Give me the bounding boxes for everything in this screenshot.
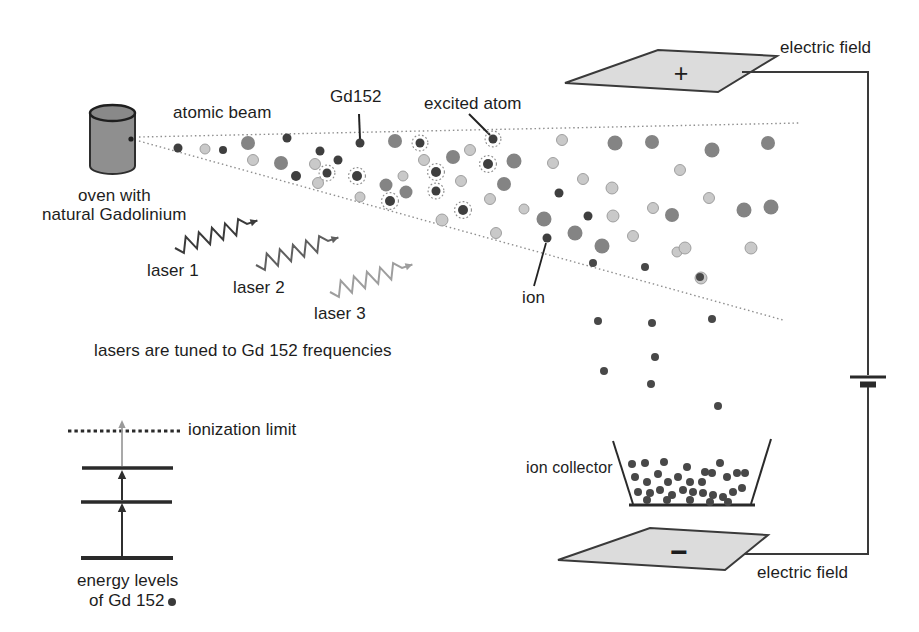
excited-atom-dot: [385, 196, 395, 206]
atom-dot-light: [419, 155, 430, 166]
electric-field-plate-bottom: [558, 528, 768, 570]
ion-dot: [594, 317, 602, 325]
atom-dot-light: [607, 210, 619, 222]
collected-ion-dot: [708, 469, 716, 477]
collected-ion-dot: [706, 498, 714, 506]
atom-dot-gray: [595, 239, 610, 254]
collected-ion-dot: [738, 484, 746, 492]
gd152-atom-dot: [219, 146, 227, 154]
collected-ion-dot: [664, 478, 672, 486]
atom-dot-gray: [241, 136, 255, 150]
collector-right-wall: [751, 439, 771, 504]
collected-ion-dot: [723, 473, 731, 481]
laser3-label: laser 3: [314, 304, 366, 323]
collected-ion-dot: [679, 486, 687, 494]
excited-atom-label: excited atom: [424, 94, 522, 113]
atom-dot-gray: [645, 135, 659, 149]
laser-1-arrowhead: [250, 219, 258, 226]
excited-atom-dot: [431, 167, 441, 177]
excited-atom-pointer-line: [469, 114, 490, 135]
collected-ion-dot: [699, 489, 707, 497]
electric-field-top-label: electric field: [780, 38, 871, 57]
gd152-pointer-line: [359, 114, 360, 139]
excited-atom-dot: [489, 135, 498, 144]
collected-ion-dot: [641, 459, 649, 467]
collected-ion-dot: [656, 486, 664, 494]
laser2-label: laser 2: [233, 278, 285, 297]
ion-dot: [648, 319, 656, 327]
laser-3-beam: [330, 263, 412, 297]
energy-levels-label-line2: of Gd 152: [89, 591, 176, 610]
ion-dot: [600, 367, 608, 375]
wire-top: [742, 72, 868, 375]
gd152-atom-dot: [283, 134, 292, 143]
ion-pointer-line: [534, 243, 546, 286]
atom-dot-light: [675, 165, 686, 176]
ion-dot: [651, 353, 659, 361]
collected-ion-dot: [663, 496, 671, 504]
laser-1-beam: [175, 219, 257, 253]
collected-ion-dot: [683, 463, 691, 471]
excited-atom-dot: [416, 139, 425, 148]
atom-dot-light: [456, 176, 467, 187]
figure-canvas: + −: [0, 0, 919, 632]
atom-dot-gray: [665, 208, 679, 222]
ion-collector-label: ion collector: [526, 459, 613, 477]
excited-atom-dot: [432, 187, 441, 196]
atom-dot-light: [606, 182, 618, 194]
laser-beams: [175, 219, 412, 297]
ionization-arrow-head: [118, 420, 125, 428]
collected-ion-dot: [686, 478, 694, 486]
laser-3-arrowhead: [405, 263, 413, 270]
gd152-atom-dot: [543, 234, 552, 243]
gd152-atom-dot: [334, 156, 343, 165]
gd152-label: Gd152: [330, 87, 382, 106]
atom-dot-light: [491, 228, 502, 239]
collected-ion-dot: [634, 488, 642, 496]
excited-atom-dot: [458, 205, 468, 215]
gd152-atom-legend-dot: [168, 598, 176, 606]
excited-atom-dot: [352, 171, 362, 181]
wire-bottom: [744, 387, 868, 554]
atom-dot-light: [557, 135, 568, 146]
collected-ion-dot: [628, 460, 636, 468]
collected-ion-dot: [674, 473, 682, 481]
ion-dot: [696, 273, 704, 281]
oven-label-line1: oven with: [78, 186, 151, 205]
gd152-atom-dot: [316, 147, 325, 156]
collected-ion-dot: [724, 498, 732, 506]
electric-field-bottom-label: electric field: [757, 563, 848, 582]
atom-dot-light: [355, 192, 365, 202]
oven-cylinder: [90, 105, 135, 174]
atom-dot-gray: [537, 212, 552, 227]
atom-dot-light: [679, 242, 691, 254]
gd152-atom-dot: [174, 144, 183, 153]
atom-dot-light: [704, 193, 715, 204]
ion-dot: [647, 380, 655, 388]
ionization-limit-label: ionization limit: [188, 420, 296, 439]
atomic-beam-label: atomic beam: [173, 103, 271, 122]
collected-ion-dot: [689, 488, 697, 496]
atom-dot-gray: [568, 226, 583, 241]
laser1-label: laser 1: [147, 261, 199, 280]
atom-dot-light: [548, 158, 559, 169]
lasers-tuned-caption: lasers are tuned to Gd 152 frequencies: [94, 341, 392, 360]
excitation-arrow-1-head: [118, 503, 126, 512]
excited-atom-dot: [483, 159, 493, 169]
atom-dot-light: [310, 159, 321, 170]
ion-dot: [708, 315, 716, 323]
atom-dot-gray: [507, 154, 522, 169]
beam-top-dotted-line: [139, 123, 800, 137]
atom-dot-gray: [400, 186, 413, 199]
atom-dot-light: [578, 174, 589, 185]
collected-ion-dot: [643, 496, 651, 504]
atom-dot-light: [248, 155, 259, 166]
collected-ion-dot: [654, 470, 662, 478]
collected-ion-dot: [729, 488, 737, 496]
atom-dot-light: [436, 214, 448, 226]
gd152-atom-dot: [584, 212, 593, 221]
collected-ion-dot: [741, 469, 749, 477]
atom-dot-light: [398, 171, 408, 181]
oven-top: [90, 105, 135, 121]
atom-dot-light: [465, 145, 476, 156]
